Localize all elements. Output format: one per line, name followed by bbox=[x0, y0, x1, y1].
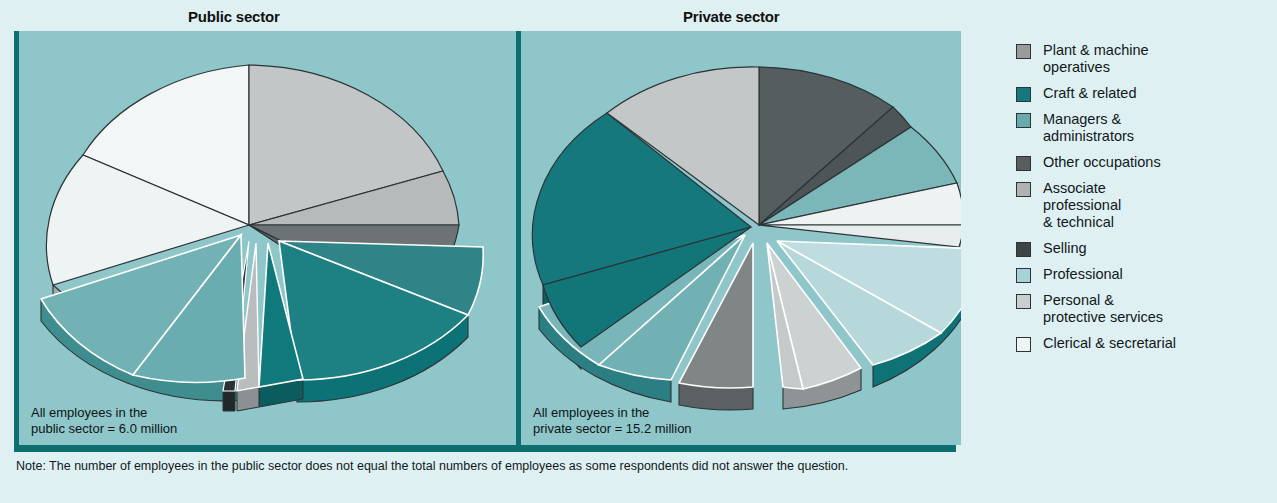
figure-root: Public sector Private sector bbox=[0, 0, 1277, 503]
legend-swatch-clerical-secretarial bbox=[1016, 337, 1031, 352]
legend-label-plant-machine-operatives: Plant & machine operatives bbox=[1043, 42, 1149, 76]
legend-swatch-other-occupations bbox=[1016, 156, 1031, 171]
legend-swatch-selling bbox=[1016, 242, 1031, 257]
legend-item-plant-machine-operatives[interactable]: Plant & machine operatives bbox=[1016, 42, 1266, 76]
legend-label-selling: Selling bbox=[1043, 240, 1087, 257]
legend-label-managers-administrators: Managers & administrators bbox=[1043, 111, 1134, 145]
panel-title-public: Public sector bbox=[188, 8, 280, 25]
legend-label-personal-protective-services: Personal & protective services bbox=[1043, 292, 1163, 326]
figure-note: Note: The number of employees in the pub… bbox=[16, 459, 848, 473]
pie-chart-public bbox=[14, 35, 513, 435]
pie-chart-private bbox=[521, 35, 961, 435]
legend-swatch-plant-machine-operatives bbox=[1016, 44, 1031, 59]
legend-label-clerical-secretarial: Clerical & secretarial bbox=[1043, 335, 1176, 352]
legend-item-other-occupations[interactable]: Other occupations bbox=[1016, 154, 1266, 171]
legend-swatch-personal-protective-services bbox=[1016, 294, 1031, 309]
chart-panel-private: All employees in the private sector = 15… bbox=[516, 31, 961, 445]
legend-swatch-associate-professional-technical bbox=[1016, 182, 1031, 197]
legend-item-associate-professional-technical[interactable]: Associate professional & technical bbox=[1016, 180, 1266, 231]
legend-label-other-occupations: Other occupations bbox=[1043, 154, 1161, 171]
legend-swatch-managers-administrators bbox=[1016, 113, 1031, 128]
pie-public-slices bbox=[41, 65, 483, 391]
panel-caption-private: All employees in the private sector = 15… bbox=[533, 405, 692, 437]
legend-item-clerical-secretarial[interactable]: Clerical & secretarial bbox=[1016, 335, 1266, 352]
legend-item-selling[interactable]: Selling bbox=[1016, 240, 1266, 257]
legend-item-professional[interactable]: Professional bbox=[1016, 266, 1266, 283]
chart-panel-public: All employees in the public sector = 6.0… bbox=[14, 31, 516, 445]
panel-caption-public: All employees in the public sector = 6.0… bbox=[31, 405, 177, 437]
legend-item-craft-related[interactable]: Craft & related bbox=[1016, 85, 1266, 102]
legend-item-personal-protective-services[interactable]: Personal & protective services bbox=[1016, 292, 1266, 326]
legend-item-managers-administrators[interactable]: Managers & administrators bbox=[1016, 111, 1266, 145]
panel-title-private: Private sector bbox=[683, 8, 779, 25]
legend-label-craft-related: Craft & related bbox=[1043, 85, 1137, 102]
legend-swatch-professional bbox=[1016, 268, 1031, 283]
bottom-rule bbox=[14, 445, 956, 452]
legend-swatch-craft-related bbox=[1016, 87, 1031, 102]
legend-label-associate-professional-technical: Associate professional & technical bbox=[1043, 180, 1121, 231]
legend: Plant & machine operativesCraft & relate… bbox=[1016, 42, 1266, 361]
legend-label-professional: Professional bbox=[1043, 266, 1123, 283]
pie-private-slices bbox=[532, 67, 961, 389]
